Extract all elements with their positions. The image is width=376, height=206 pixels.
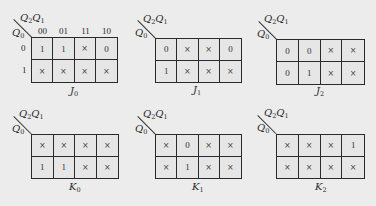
kmap-cell: × [199,61,220,83]
kmap-cell: × [96,60,117,82]
kmap-cell: × [220,157,241,179]
kmap-cell: × [97,157,119,179]
kmap-cell: × [342,157,364,179]
kmap-cell: × [199,39,220,61]
kmap-grid: 0 0 × × 0 1 × × [276,39,365,85]
kmap-cell: × [342,62,364,84]
col-header: 01 [53,26,74,36]
map-label: J0 [70,85,78,98]
map-label: K0 [69,181,81,194]
kmap-cell: × [342,40,364,62]
row-variable: Q0 [12,123,24,136]
kmap-cell: 1 [32,157,54,179]
row-header: 1 [22,65,27,75]
col-variables: Q2Q1 [143,13,168,26]
col-header: 11 [75,26,96,36]
kmap-cell: 1 [32,38,53,60]
kmap-cell: × [75,157,97,179]
kmap-cell: 0 [277,62,299,84]
kmap-cell: 1 [342,135,364,157]
kmap-cell: × [97,135,119,157]
kmap-grid: × × × 1 × × × × [276,134,365,179]
kmap-cell: × [156,135,177,157]
row-header: 0 [21,43,26,53]
kmap-cell: × [32,135,54,157]
kmap-grid: 0 × × 0 1 × × × [155,38,242,83]
kmap-cell: 0 [299,40,321,62]
kmap-cell: × [75,135,97,157]
kmap-cell: × [32,60,53,82]
row-variable: Q0 [135,123,147,136]
col-header: 10 [96,26,117,36]
map-label: K1 [192,181,204,194]
kmap-cell: 1 [299,62,321,84]
kmap-cell: × [177,61,198,83]
kmap-cell: × [220,61,241,83]
kmap-cell: × [75,38,96,60]
kmap-cell: × [177,39,198,61]
row-variable: Q0 [257,122,269,135]
kmap-cell: × [54,135,76,157]
kmap-grid: × × × × 1 1 × × [31,134,119,179]
kmap-cell: 0 [156,39,177,61]
col-variables: Q2Q1 [20,12,45,25]
col-variables: Q2Q1 [19,108,44,121]
kmap-grid: 1 1 × 0 × × × × [31,37,118,83]
kmap-cell: 1 [53,38,74,60]
kmap-cell: × [321,62,343,84]
kmap-cell: 0 [220,39,241,61]
kmap-cell: 0 [177,135,198,157]
kmap-cell: × [75,60,96,82]
kmap-cell: × [277,135,299,157]
kmap-cell: × [277,157,299,179]
kmap-cell: × [299,135,321,157]
kmap-cell: × [321,157,343,179]
kmap-cell: 1 [156,61,177,83]
map-label: J2 [316,85,324,98]
col-variables: Q2Q1 [264,107,289,120]
kmap-cell: 0 [96,38,117,60]
kmap-cell: 1 [177,157,198,179]
kmap-cell: × [53,60,74,82]
kmap-cell: 0 [277,40,299,62]
kmap-cell: × [220,135,241,157]
row-variable: Q0 [12,27,24,40]
kmap-cell: × [321,135,343,157]
kmap-grid: × 0 × × × 1 × × [155,134,242,179]
col-variables: Q2Q1 [143,108,168,121]
kmap-cell: × [199,135,220,157]
kmap-cell: × [199,157,220,179]
row-variable: Q0 [135,27,147,40]
map-label: J1 [193,84,201,97]
col-header: 00 [32,26,53,36]
map-label: K2 [315,181,327,194]
kmap-cell: × [321,40,343,62]
col-variables: Q2Q1 [264,13,289,26]
row-variable: Q0 [257,28,269,41]
kmap-cell: 1 [54,157,76,179]
kmap-cell: × [299,157,321,179]
kmap-cell: × [156,157,177,179]
